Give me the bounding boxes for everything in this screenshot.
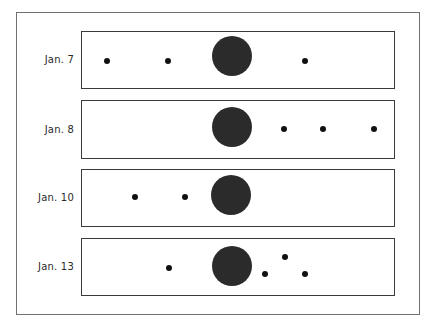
row-label: Jan. 13 xyxy=(14,261,74,273)
moon-dot xyxy=(262,271,268,277)
moon-dot xyxy=(281,126,287,132)
moon-dot xyxy=(104,58,110,64)
planet-disc xyxy=(211,175,251,215)
moon-dot xyxy=(166,265,172,271)
planet-disc xyxy=(212,36,252,76)
moon-dot xyxy=(282,254,288,260)
planet-disc xyxy=(212,107,252,147)
row-label: Jan. 8 xyxy=(14,124,74,136)
moon-dot xyxy=(302,58,308,64)
moon-dot xyxy=(371,126,377,132)
moon-dot xyxy=(132,194,138,200)
planet-disc xyxy=(212,246,252,286)
moon-dot xyxy=(182,194,188,200)
moon-dot xyxy=(165,58,171,64)
row-label: Jan. 7 xyxy=(14,54,74,66)
moon-dot xyxy=(302,271,308,277)
row-label: Jan. 10 xyxy=(14,192,74,204)
moon-dot xyxy=(320,126,326,132)
